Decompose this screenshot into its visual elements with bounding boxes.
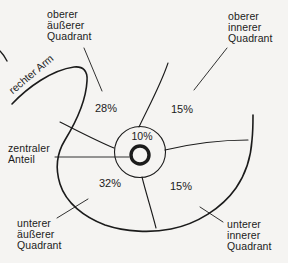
pointer-lower-inner — [200, 207, 223, 222]
pointer-lower-outer — [57, 199, 88, 218]
label-upper-outer-quadrant: oberer äußerer Quadrant — [47, 9, 92, 42]
label-line: Anteil — [8, 154, 50, 165]
label-line: Quadrant — [228, 33, 273, 44]
label-line: Quadrant — [227, 241, 272, 252]
nipple-ring — [131, 146, 149, 164]
percent-central: 10% — [131, 130, 152, 142]
breast-quadrant-diagram: 28% 15% 10% 32% 15% oberer äußerer Quadr… — [0, 0, 288, 263]
divider-right — [165, 140, 248, 150]
edge-line — [0, 51, 7, 61]
percent-upper-outer: 28% — [95, 102, 117, 114]
label-line: Quadrant — [47, 31, 92, 42]
percent-lower-outer: 32% — [99, 177, 121, 189]
divider-lower — [142, 177, 156, 228]
label-lower-outer-quadrant: unterer äußerer Quadrant — [17, 218, 62, 251]
label-lower-inner-quadrant: unterer innerer Quadrant — [227, 219, 272, 252]
label-upper-inner-quadrant: oberer innerer Quadrant — [228, 11, 273, 44]
percent-upper-inner: 15% — [171, 103, 193, 115]
divider-upper — [139, 63, 168, 127]
pointer-upper-inner — [194, 48, 227, 90]
label-central-portion: zentraler Anteil — [8, 143, 50, 165]
percent-lower-inner: 15% — [170, 180, 192, 192]
label-line: Quadrant — [17, 240, 62, 251]
